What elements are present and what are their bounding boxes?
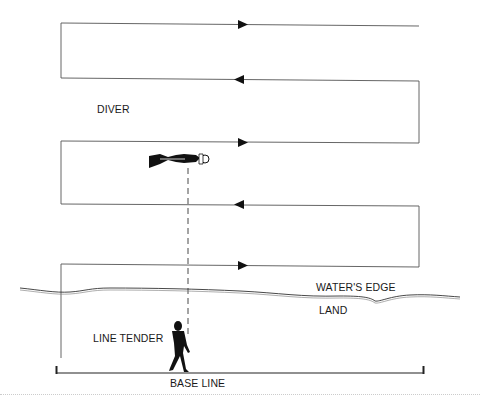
diver-figure-icon: [149, 154, 209, 168]
direction-arrows: [234, 20, 248, 270]
arrow-left-icon: [234, 200, 244, 209]
arrow-left-icon: [234, 75, 244, 84]
waters-edge-label: WATER'S EDGE: [316, 281, 396, 293]
arrow-right-icon: [238, 20, 248, 29]
search-pattern-diagram: [0, 0, 480, 404]
arrow-right-icon: [238, 138, 248, 147]
line-tender-label: LINE TENDER: [93, 332, 163, 344]
land-label: LAND: [319, 304, 347, 316]
sweep-path: [61, 23, 419, 358]
figure-caption: [0, 394, 480, 404]
base-line: [56, 366, 424, 374]
line-tender-figure-icon: [169, 321, 190, 372]
arrow-right-icon: [238, 261, 248, 270]
diver-label: DIVER: [97, 103, 130, 115]
base-line-label: BASE LINE: [170, 377, 225, 389]
